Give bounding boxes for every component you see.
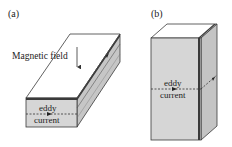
eddy-label-a-line1: eddy [39,104,57,113]
eddy-label-b-line2: current [160,91,185,100]
panel-a-label: (a) [8,9,19,19]
magnetic-field-label: Magnetic field [12,52,68,62]
panel-b-label: (b) [151,9,163,19]
eddy-label-b-line1: eddy [164,79,182,88]
eddy-current-diagram: (a) (b) Magnetic field eddy current eddy… [0,0,232,147]
block-b [151,24,217,140]
eddy-label-a-line2: current [34,116,59,125]
slab-a [26,34,120,127]
